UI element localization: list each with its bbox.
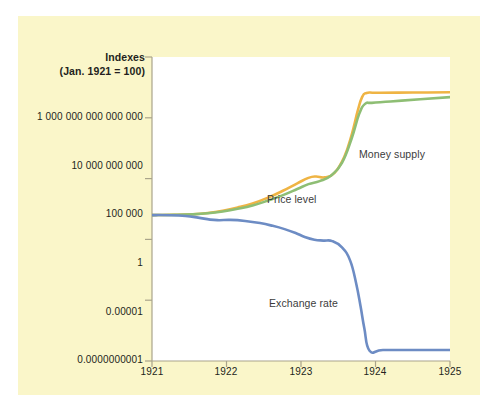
- hyperinflation-chart-figure: Indexes (Jan. 1921 = 100) 1 000 000 000 …: [0, 0, 501, 411]
- series-line-exchange-rate: [152, 215, 450, 353]
- x-axis-tick-marks: [152, 361, 450, 367]
- axis-lines: [152, 57, 450, 361]
- data-series-paths: [152, 92, 450, 352]
- y-axis-tick-marks: [145, 57, 152, 361]
- chart-vector-layer: [0, 0, 501, 411]
- series-annotation-exchange-rate: Exchange rate: [269, 297, 338, 309]
- series-annotation-money-supply: Money supply: [359, 148, 425, 160]
- series-annotation-price-level: Price level: [267, 193, 317, 205]
